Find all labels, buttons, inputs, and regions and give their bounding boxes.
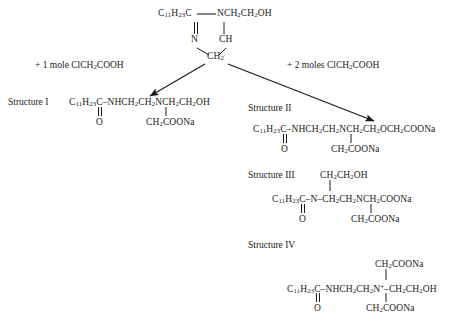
condition-right: + 2 moles ClCH2COOH <box>287 60 379 70</box>
reactant-hydroxyethyl-nitrogen: NCH2CH2OH <box>217 8 272 18</box>
reactant-ring-ch: CH <box>219 34 232 44</box>
structure-2-main-chain: C11H23C–NHCH2CH2NCH2CH2OCH2COONa <box>253 124 435 134</box>
structure-2-carbonyl-oxygen: O <box>281 144 288 154</box>
structure-4-label: Structure IV <box>248 240 295 250</box>
structure-1-carboxymethyl-branch: CH2COONa <box>146 117 195 127</box>
structure-3-label: Structure III <box>248 170 295 180</box>
structure-1-label: Structure I <box>8 97 48 107</box>
reactant-ring-nitrogen: N <box>191 34 198 44</box>
structure-1-bonds <box>0 0 462 321</box>
structure-3-carboxymethyl-branch: CH2COONa <box>351 214 400 224</box>
structure-3-bonds <box>0 0 462 321</box>
reaction-arrows <box>0 0 462 321</box>
condition-left: + 1 mole ClCH2COOH <box>35 60 124 70</box>
structure-4-carboxymethyl-branch: CH2COONa <box>366 303 415 313</box>
structure-3-hydroxyethyl-branch: CH2CH2OH <box>320 170 368 180</box>
arrow-left <box>150 64 205 96</box>
structure-2-bonds <box>0 0 462 321</box>
structure-3-main-chain: C11H23C–N–CH2CH2NCH2COONa <box>272 194 412 204</box>
structure-4-carboxymethyl-top-branch: CH2COONa <box>375 259 424 269</box>
reactant-alkyl-carbon: C11H23C <box>158 8 192 18</box>
structure-4-bonds <box>0 0 462 321</box>
structure-4-main-chain: C11H23C–NHCH2CH2N+–CH2CH2OH <box>287 283 437 294</box>
structure-2-carboxymethyl-branch: CH2COONa <box>331 144 380 154</box>
structure-2-label: Structure II <box>248 103 292 113</box>
structure-4-carbonyl-oxygen: O <box>314 303 321 313</box>
structure-1-main-chain: C11H23C–NHCH2CH2NCH2CH2OH <box>69 97 210 107</box>
reactant-ring-ch2: CH2 <box>207 51 224 61</box>
structure-3-carbonyl-oxygen: O <box>299 214 306 224</box>
structure-1-carbonyl-oxygen: O <box>96 117 103 127</box>
